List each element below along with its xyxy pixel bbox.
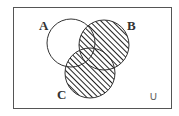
label-c: C: [57, 88, 66, 101]
union-symbol: ∪: [149, 90, 158, 102]
label-a: A: [39, 19, 48, 32]
label-b: B: [127, 19, 136, 32]
